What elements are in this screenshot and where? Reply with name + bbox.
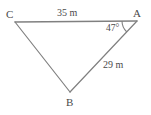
side-length-label-ca: 35 m (57, 8, 77, 18)
triangle-side-ca (15, 21, 137, 22)
side-length-label-ab: 29 m (103, 60, 123, 70)
triangle-diagram: C A B 35 m 29 m 47° (0, 0, 151, 115)
angle-measure-label-a: 47° (106, 24, 119, 34)
vertex-label-b: B (66, 97, 73, 108)
vertex-label-c: C (6, 9, 13, 20)
triangle-side-cb (15, 22, 70, 92)
vertex-label-a: A (133, 8, 141, 19)
angle-arc-marker-a (122, 21, 127, 32)
